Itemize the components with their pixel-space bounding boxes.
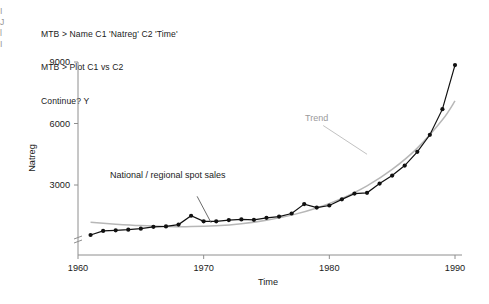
data-point-marker bbox=[415, 150, 419, 154]
data-point-marker bbox=[164, 224, 168, 228]
x-tick-label: 1970 bbox=[193, 263, 213, 273]
data-point-marker bbox=[126, 228, 130, 232]
annotation-trend-label: Trend bbox=[305, 113, 328, 123]
data-point-marker bbox=[227, 218, 231, 222]
data-point-marker bbox=[252, 218, 256, 222]
x-axis-title: Time bbox=[258, 277, 278, 287]
data-point-marker bbox=[88, 233, 92, 237]
chart-page: I J l I MTB > Name C1 'Natreg' C2 'Time'… bbox=[0, 0, 489, 304]
x-tick-label: 1980 bbox=[319, 263, 339, 273]
y-tick-label: 6000 bbox=[50, 119, 70, 129]
data-point-marker bbox=[114, 228, 118, 232]
data-series-line bbox=[91, 65, 455, 235]
data-point-marker bbox=[340, 197, 344, 201]
data-point-marker bbox=[290, 211, 294, 215]
data-point-marker bbox=[139, 227, 143, 231]
x-tick-label: 1960 bbox=[68, 263, 88, 273]
x-axis-ticks: 1960197019801990 bbox=[68, 255, 465, 273]
data-point-marker bbox=[352, 192, 356, 196]
y-tick-label: 9000 bbox=[50, 57, 70, 67]
trend-curve bbox=[91, 101, 455, 227]
data-point-marker bbox=[315, 205, 319, 209]
data-point-marker bbox=[403, 163, 407, 167]
annotation-spot-sales-label: National / regional spot sales bbox=[110, 170, 226, 180]
y-axis-ticks: 300060009000 bbox=[50, 57, 78, 190]
data-point-marker bbox=[277, 214, 281, 218]
y-axis-title: Natreg bbox=[27, 144, 37, 172]
data-point-marker bbox=[378, 181, 382, 185]
annotation-leader-trend bbox=[323, 126, 367, 155]
data-point-marker bbox=[365, 191, 369, 195]
data-point-marker bbox=[176, 222, 180, 226]
data-point-marker bbox=[264, 216, 268, 220]
data-point-marker bbox=[390, 173, 394, 177]
data-point-marker bbox=[101, 229, 105, 233]
data-point-marker bbox=[453, 63, 457, 67]
data-point-marker bbox=[239, 217, 243, 221]
data-point-marker bbox=[214, 219, 218, 223]
data-point-marker bbox=[440, 107, 444, 111]
plot-canvas: 300060009000 1960197019801990 Natreg Tim… bbox=[0, 0, 489, 304]
data-point-marker bbox=[151, 225, 155, 229]
x-tick-label: 1990 bbox=[445, 263, 465, 273]
data-point-marker bbox=[428, 133, 432, 137]
data-point-marker bbox=[327, 203, 331, 207]
data-point-marker bbox=[189, 214, 193, 218]
data-point-marker bbox=[202, 219, 206, 223]
data-point-marker bbox=[302, 202, 306, 206]
y-tick-label: 3000 bbox=[50, 180, 70, 190]
data-series-markers bbox=[88, 63, 457, 237]
